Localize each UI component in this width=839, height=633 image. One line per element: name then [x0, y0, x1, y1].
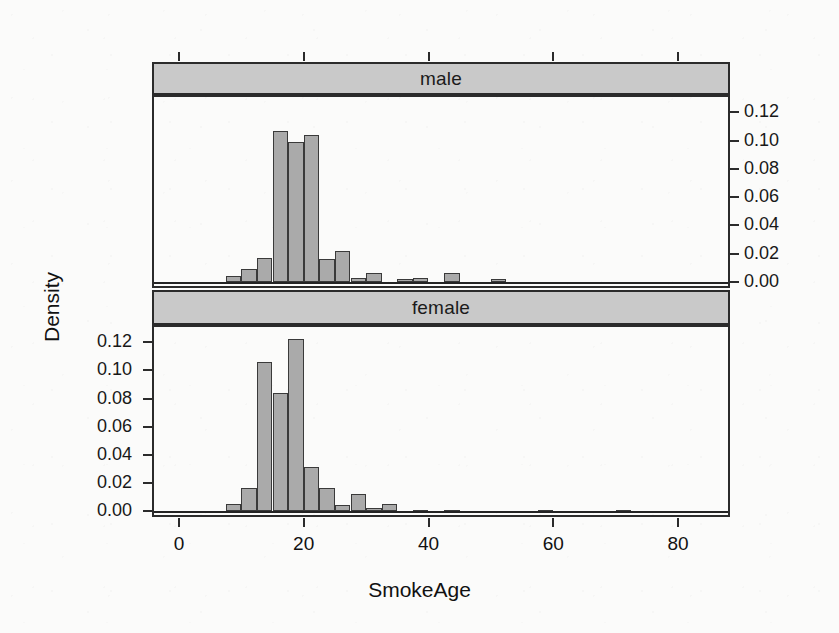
histogram-bar [335, 251, 351, 283]
y-axis-tick-label: 0.00 [744, 271, 779, 292]
x-axis-tick-bottom [303, 518, 305, 527]
y-axis-tick-label: 0.06 [60, 416, 132, 437]
histogram-bar [319, 488, 335, 511]
y-axis-tick [730, 111, 739, 113]
y-axis-tick [730, 196, 739, 198]
x-axis-tick-top [303, 52, 305, 61]
histogram-bar [257, 258, 273, 282]
y-axis-tick [143, 369, 152, 371]
y-axis-tick-label: 0.02 [744, 243, 779, 264]
x-axis-tick-top [552, 52, 554, 61]
histogram-bar [288, 339, 304, 511]
panel-baseline [154, 282, 728, 284]
x-axis-tick-label: 80 [638, 533, 718, 555]
y-axis-tick-label: 0.08 [60, 388, 132, 409]
histogram-bar [273, 393, 289, 511]
histogram-bar [241, 269, 257, 282]
y-axis-tick [143, 341, 152, 343]
panel-male [152, 95, 730, 288]
histogram-bar [319, 259, 335, 282]
histogram-bar [444, 273, 460, 282]
y-axis-tick [143, 454, 152, 456]
histogram-bar [288, 142, 304, 282]
x-axis-tick-top [428, 52, 430, 61]
x-axis-tick-bottom [178, 518, 180, 527]
y-axis-tick-label: 0.08 [744, 158, 779, 179]
figure-canvas: male female 0.000.020.040.060.080.100.12… [0, 0, 839, 633]
strip-label-female: female [412, 297, 470, 319]
histogram-bar [241, 488, 257, 511]
y-axis-title: Density [40, 247, 64, 367]
y-axis-tick [143, 482, 152, 484]
x-axis-tick-label: 60 [513, 533, 593, 555]
y-axis-tick [730, 253, 739, 255]
y-axis-tick [730, 281, 739, 283]
histogram-bar [273, 131, 289, 283]
panel-female [152, 325, 730, 517]
histogram-bar [382, 504, 398, 511]
x-axis-tick-top [178, 52, 180, 61]
y-axis-tick-label: 0.04 [744, 214, 779, 235]
y-axis-tick-label: 0.10 [60, 359, 132, 380]
strip-header-male: male [152, 62, 730, 95]
y-axis-tick-label: 0.12 [60, 331, 132, 352]
y-axis-tick [730, 140, 739, 142]
y-axis-tick-label: 0.12 [744, 101, 779, 122]
y-axis-tick-label: 0.00 [60, 500, 132, 521]
histogram-bar [304, 135, 320, 282]
y-axis-tick [730, 224, 739, 226]
y-axis-tick [143, 426, 152, 428]
y-axis-tick-label: 0.06 [744, 186, 779, 207]
x-axis-tick-label: 0 [139, 533, 219, 555]
histogram-bar [351, 494, 367, 511]
x-axis-tick-bottom [428, 518, 430, 527]
panel-baseline [154, 511, 728, 513]
x-axis-tick-bottom [677, 518, 679, 527]
x-axis-tick-label: 20 [264, 533, 344, 555]
x-axis-tick-bottom [552, 518, 554, 527]
y-axis-tick-label: 0.02 [60, 472, 132, 493]
plot-area-female [154, 327, 728, 515]
strip-label-male: male [420, 68, 462, 90]
x-axis-tick-top [677, 52, 679, 61]
strip-header-female: female [152, 290, 730, 325]
x-axis-tick-label: 40 [389, 533, 469, 555]
y-axis-tick [143, 510, 152, 512]
y-axis-tick-label: 0.10 [744, 130, 779, 151]
y-axis-tick [730, 168, 739, 170]
y-axis-tick [143, 398, 152, 400]
histogram-bar [366, 273, 382, 282]
histogram-bar [257, 362, 273, 511]
plot-area-male [154, 97, 728, 286]
histogram-bar [304, 467, 320, 511]
histogram-bar [226, 504, 242, 511]
x-axis-title: SmokeAge [0, 578, 839, 602]
y-axis-tick-label: 0.04 [60, 444, 132, 465]
